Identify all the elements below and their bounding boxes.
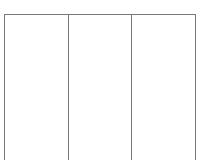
column-3 (131, 15, 195, 160)
three-column-frame (4, 14, 196, 160)
column-2 (68, 15, 132, 160)
column-3-label (132, 15, 195, 19)
column-2-label (69, 15, 132, 19)
column-1-label (5, 15, 68, 19)
column-1 (5, 15, 68, 160)
